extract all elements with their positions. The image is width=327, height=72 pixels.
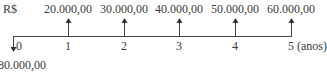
tick-label-3: 3	[176, 40, 182, 52]
up-arrow-icon-1	[66, 18, 72, 36]
inflow-value-3: 40.000,00	[155, 3, 203, 15]
initial-outflow-value: 80.000,00	[0, 59, 46, 71]
inflow-value-5: 60.000,00	[267, 3, 315, 15]
unit-label: (anos)	[297, 39, 327, 53]
inflow-value-2: 30.000,00	[100, 3, 148, 15]
currency-label: R$	[3, 3, 17, 15]
up-arrow-icon-3	[177, 18, 183, 36]
tick-label-1: 1	[65, 40, 71, 52]
inflow-value-4: 50.000,00	[211, 3, 259, 15]
inflow-value-1: 20.000,00	[44, 3, 92, 15]
up-arrow-icon-2	[122, 18, 128, 36]
up-arrow-icon-5	[289, 18, 295, 36]
tick-label-0: 0	[16, 40, 22, 52]
tick-label-2: 2	[121, 40, 127, 52]
up-arrow-icon-4	[233, 18, 239, 36]
tick-label-4: 4	[232, 40, 238, 52]
tick-label-5-number: 5	[288, 39, 294, 53]
tick-label-5: 5 (anos)	[288, 40, 327, 52]
